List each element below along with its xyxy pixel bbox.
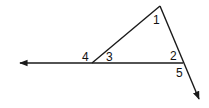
angle-label-4: 4 bbox=[82, 50, 89, 64]
angle-label-2: 2 bbox=[170, 49, 177, 63]
angle-label-5: 5 bbox=[176, 66, 183, 80]
angle-label-1: 1 bbox=[153, 13, 160, 27]
geometry-diagram: 1 2 3 4 5 bbox=[0, 0, 209, 108]
triangle-side-left bbox=[92, 6, 160, 63]
slanted-ray bbox=[160, 6, 199, 99]
angle-label-3: 3 bbox=[106, 50, 113, 64]
